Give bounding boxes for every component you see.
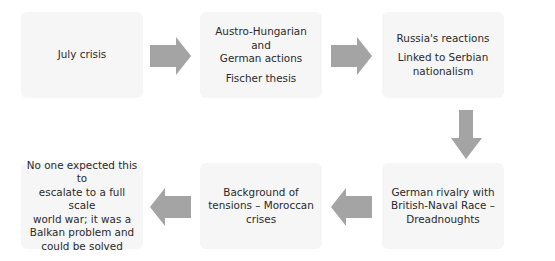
node-text: Dreadnoughts bbox=[406, 213, 480, 227]
node-text: escalate to a full scale bbox=[25, 186, 139, 213]
node-text: could be solved bbox=[41, 240, 123, 254]
node-background-of-tensions: Background of tensions – Moroccan crises bbox=[200, 163, 322, 249]
node-text: tensions – Moroccan bbox=[208, 199, 314, 213]
node-text: Balkan problem and bbox=[30, 226, 134, 240]
arrow-left-icon bbox=[150, 188, 192, 226]
node-text: Russia's reactions bbox=[397, 32, 490, 46]
node-austro-hungarian-german-actions: Austro-Hungarian and German actions Fisc… bbox=[200, 12, 322, 98]
node-german-british-naval-race: German rivalry with British-Naval Race –… bbox=[382, 163, 504, 249]
arrow-right-icon bbox=[331, 37, 373, 75]
node-text: July crisis bbox=[58, 48, 107, 62]
node-text: Austro-Hungarian and bbox=[204, 25, 318, 52]
node-subtext: nationalism bbox=[413, 65, 474, 79]
node-text: British-Naval Race – bbox=[391, 199, 495, 213]
arrow-left-icon bbox=[331, 188, 373, 226]
node-text: No one expected this to bbox=[25, 159, 139, 186]
node-subtext: Fischer thesis bbox=[226, 72, 297, 86]
arrow-right-icon bbox=[150, 37, 192, 75]
node-text: Background of bbox=[223, 186, 298, 200]
node-russias-reactions: Russia's reactions Linked to Serbian nat… bbox=[382, 12, 504, 98]
arrow-down-icon bbox=[451, 110, 483, 160]
node-text: world war; it was a bbox=[33, 213, 131, 227]
node-subtext: Linked to Serbian bbox=[398, 51, 489, 65]
node-text: crises bbox=[246, 213, 276, 227]
node-july-crisis: July crisis bbox=[21, 12, 143, 98]
node-text: German rivalry with bbox=[391, 186, 494, 200]
node-text: German actions bbox=[220, 52, 302, 66]
node-no-one-expected: No one expected this to escalate to a fu… bbox=[21, 163, 143, 249]
